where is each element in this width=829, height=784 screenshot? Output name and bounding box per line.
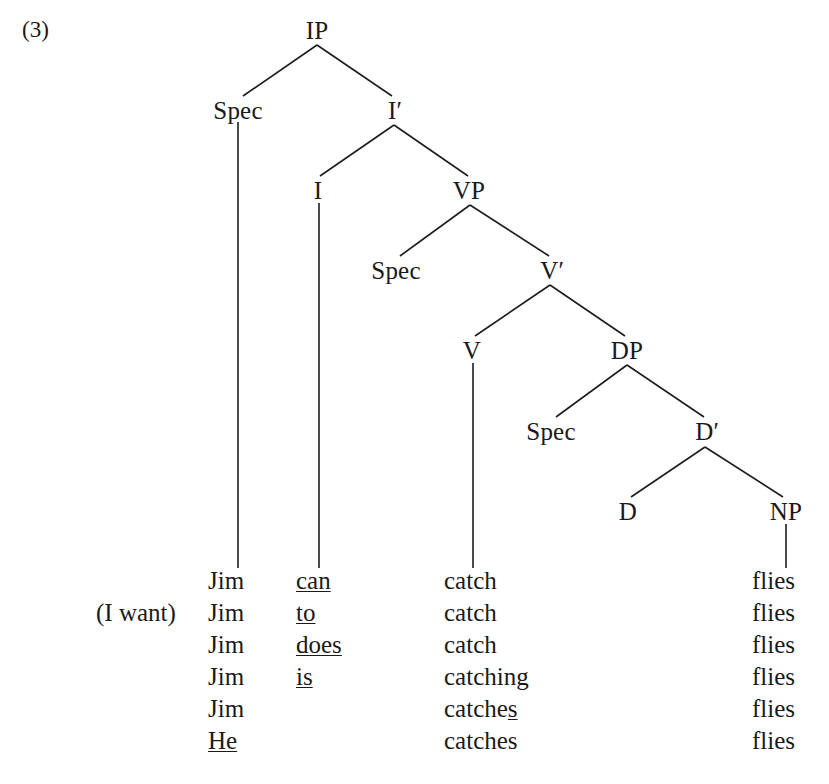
word-cell-object: flies (752, 694, 795, 724)
word-cell-inflection: is (296, 662, 313, 692)
word-cell-verb: catch (444, 598, 497, 628)
tree-node-i: I (314, 178, 323, 203)
underlined-word: to (296, 599, 315, 626)
word-cell-inflection: does (296, 630, 342, 660)
underlined-suffix: s (508, 695, 518, 722)
word-cell-object: flies (752, 662, 795, 692)
tree-node-vp: VP (453, 178, 485, 203)
tree-node-ibar: I′ (388, 98, 402, 123)
word-cell-verb: catches (444, 726, 518, 756)
word-cell-object: flies (752, 598, 795, 628)
word-cell-subject: Jim (208, 630, 244, 660)
tree-edge-dbar-to-np (705, 447, 783, 497)
word-cell-subject: Jim (208, 598, 244, 628)
word-cell-verb: catching (444, 662, 529, 692)
tree-node-specdp: Spec (526, 419, 575, 444)
tree-node-d: D (619, 499, 637, 524)
underlined-word: is (296, 663, 313, 690)
underlined-word: can (296, 567, 331, 594)
word-cell-inflection: can (296, 566, 331, 596)
word-row: (I want)Jimtocatchflies (0, 598, 829, 630)
tree-node-ip: IP (306, 18, 329, 43)
word-cell-object: flies (752, 726, 795, 756)
word-cell-prefix: (I want) (96, 598, 176, 628)
tree-node-v: V (463, 338, 481, 363)
example-number: (3) (22, 18, 49, 41)
word-cell-object: flies (752, 566, 795, 596)
underlined-word: does (296, 631, 342, 658)
word-variants-table: Jimcancatchflies(I want)JimtocatchfliesJ… (0, 566, 829, 758)
tree-edge-ip-to-ibar (317, 45, 392, 96)
prime-mark: ′ (397, 97, 402, 124)
tree-node-specip: Spec (213, 98, 262, 123)
prime-mark: ′ (558, 257, 563, 284)
word-cell-subject: Jim (208, 566, 244, 596)
tree-edge-vp-to-vbar (470, 205, 549, 256)
tree-edge-vbar-to-v (475, 285, 550, 336)
word-cell-inflection: to (296, 598, 315, 628)
tree-edge-dbar-to-d (631, 447, 705, 497)
tree-edge-dp-to-dbar (627, 365, 704, 417)
word-row: Hecatchesflies (0, 726, 829, 758)
underlined-word: He (208, 727, 237, 754)
tree-edge-ip-to-specip (243, 45, 317, 96)
word-row: Jimiscatchingflies (0, 662, 829, 694)
tree-edge-ibar-to-i (320, 125, 394, 176)
tree-node-np: NP (770, 499, 802, 524)
word-cell-verb: catch (444, 630, 497, 660)
word-cell-verb: catch (444, 566, 497, 596)
word-cell-subject: Jim (208, 694, 244, 724)
tree-edge-dp-to-specdp (556, 365, 627, 417)
word-cell-object: flies (752, 630, 795, 660)
tree-edge-vp-to-specvp (400, 205, 470, 256)
word-cell-subject: He (208, 726, 237, 756)
tree-node-vbar: V′ (540, 258, 564, 283)
word-row: Jimcatchesflies (0, 694, 829, 726)
tree-edge-vbar-to-dp (550, 285, 625, 336)
tree-edge-ibar-to-vp (394, 125, 468, 176)
tree-node-dbar: D′ (695, 419, 719, 444)
word-stem: catche (444, 695, 508, 722)
prime-mark: ′ (713, 418, 718, 445)
syntax-tree-figure: (3) IPSpecI′IVPSpecV′VDPSpecD′DNP Jimcan… (0, 0, 829, 784)
word-cell-subject: Jim (208, 662, 244, 692)
tree-node-specvp: Spec (371, 258, 420, 283)
tree-node-dp: DP (611, 338, 643, 363)
word-row: Jimdoescatchflies (0, 630, 829, 662)
word-cell-verb: catches (444, 694, 518, 724)
word-row: Jimcancatchflies (0, 566, 829, 598)
